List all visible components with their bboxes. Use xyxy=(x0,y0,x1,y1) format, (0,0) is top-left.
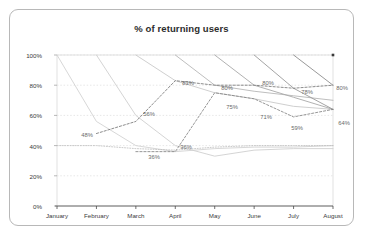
x-axis-tick-label: June xyxy=(247,212,260,219)
x-axis-tick-label: August xyxy=(323,212,342,219)
x-axis-tick-label: April xyxy=(169,212,181,219)
x-axis-tick-label: July xyxy=(288,212,299,219)
chart-card: % of returning users 0%20%40%60%80%100% … xyxy=(9,9,354,226)
x-axis-tick-label: May xyxy=(209,212,221,219)
x-axis-tick-label: March xyxy=(127,212,144,219)
x-axis: JanuaryFebruaryMarchAprilMayJuneJulyAugu… xyxy=(10,10,355,227)
x-axis-tick-label: February xyxy=(84,212,109,219)
x-axis-tick-label: January xyxy=(46,212,68,219)
